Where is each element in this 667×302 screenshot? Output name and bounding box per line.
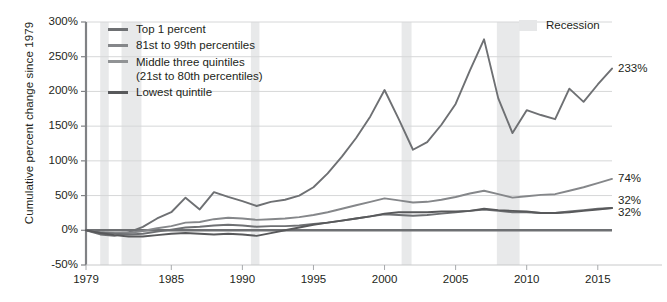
legend-label-middle-three-quintiles-line2: (21st to 80th percentiles) bbox=[136, 69, 263, 83]
y-tick-label: -50% bbox=[32, 258, 78, 270]
y-tick-label: 150% bbox=[32, 119, 78, 131]
x-tick-label: 2000 bbox=[360, 273, 410, 285]
x-tick-label: 2005 bbox=[431, 273, 481, 285]
legend-item-81st-to-99th: 81st to 99th percentiles bbox=[108, 38, 263, 52]
legend-swatch-81st-to-99th bbox=[108, 44, 128, 47]
recession-band bbox=[497, 22, 520, 265]
chart-legend: Top 1 percent 81st to 99th percentiles M… bbox=[108, 22, 263, 102]
series-line-3 bbox=[86, 208, 612, 236]
y-tick-label: 300% bbox=[32, 15, 78, 27]
legend-label-81st-to-99th: 81st to 99th percentiles bbox=[136, 38, 255, 52]
series-end-label-3: 32% bbox=[618, 206, 641, 218]
legend-label-middle-three-quintiles-line1: Middle three quintiles bbox=[136, 55, 263, 69]
x-tick-label: 2015 bbox=[573, 273, 623, 285]
legend-label-lowest-quintile: Lowest quintile bbox=[136, 85, 212, 99]
x-tick-label: 1990 bbox=[217, 273, 267, 285]
series-line-1 bbox=[86, 179, 612, 233]
y-tick-label: 100% bbox=[32, 154, 78, 166]
y-tick-label: 200% bbox=[32, 84, 78, 96]
legend-item-lowest-quintile: Lowest quintile bbox=[108, 85, 263, 99]
x-tick-label: 1995 bbox=[288, 273, 338, 285]
series-end-label-2: 32% bbox=[618, 194, 641, 206]
chart-container: Cumulative percent change since 1979 Top… bbox=[0, 0, 667, 302]
legend-swatch-lowest-quintile bbox=[108, 91, 128, 94]
series-end-label-1: 74% bbox=[618, 172, 641, 184]
series-end-label-0: 233% bbox=[618, 62, 647, 74]
legend-item-middle-three-quintiles: Middle three quintiles (21st to 80th per… bbox=[108, 55, 263, 83]
legend-label-middle-three-quintiles: Middle three quintiles (21st to 80th per… bbox=[136, 55, 263, 83]
legend-swatch-recession bbox=[519, 20, 537, 31]
x-tick-label: 1979 bbox=[61, 273, 111, 285]
legend-swatch-middle-three-quintiles bbox=[108, 60, 128, 63]
x-tick-label: 2010 bbox=[502, 273, 552, 285]
x-tick-label: 1985 bbox=[146, 273, 196, 285]
legend-label-recession: Recession bbox=[546, 19, 600, 31]
legend-swatch-top-1-percent bbox=[108, 28, 128, 31]
line-chart-plot bbox=[0, 0, 667, 302]
legend-label-top-1-percent: Top 1 percent bbox=[136, 22, 206, 36]
legend-item-recession: Recession bbox=[519, 19, 600, 31]
legend-item-top-1-percent: Top 1 percent bbox=[108, 22, 263, 36]
y-tick-label: 50% bbox=[32, 189, 78, 201]
y-tick-label: 250% bbox=[32, 50, 78, 62]
y-tick-label: 0% bbox=[32, 223, 78, 235]
